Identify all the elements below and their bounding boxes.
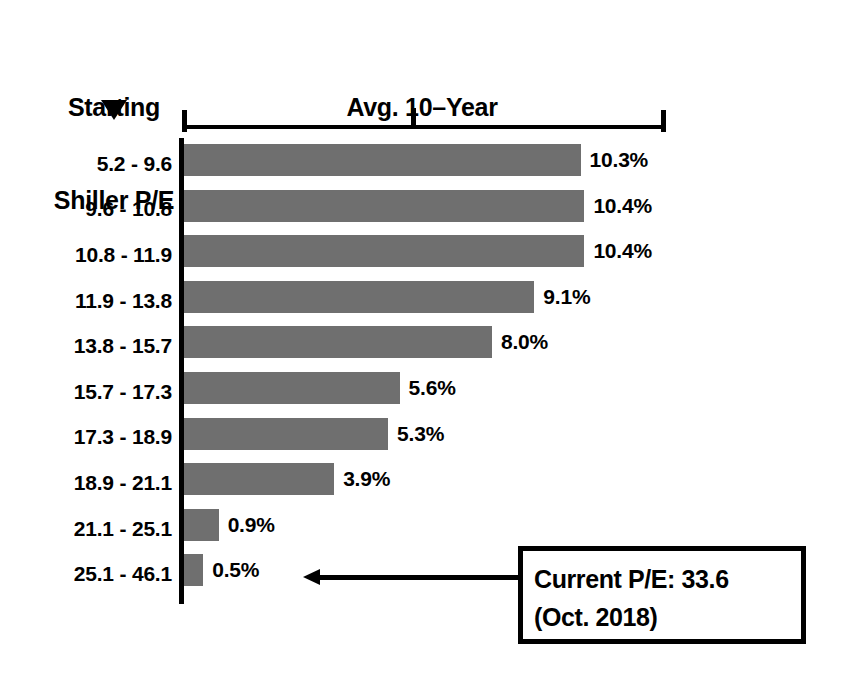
- bar-and-value: 3.9%: [184, 463, 390, 495]
- x-axis-tick-start: [182, 110, 187, 132]
- category-label: 18.9 - 21.1: [74, 471, 172, 495]
- bar-row: 11.9 - 13.89.1%: [0, 278, 852, 324]
- bar-row: 9.6 - 10.810.4%: [0, 187, 852, 233]
- bar-value-label: 10.3%: [590, 148, 649, 172]
- bar: [184, 418, 388, 450]
- category-label: 13.8 - 15.7: [74, 334, 172, 358]
- bar-and-value: 10.4%: [184, 235, 652, 267]
- category-label: 15.7 - 17.3: [74, 380, 172, 404]
- callout-arrow: [303, 575, 519, 581]
- bar-and-value: 10.3%: [184, 144, 648, 176]
- chart-title-line-1: Avg. 10–Year: [278, 92, 566, 123]
- bar: [184, 235, 584, 267]
- bar-row: 18.9 - 21.13.9%: [0, 460, 852, 506]
- category-label: 10.8 - 11.9: [75, 243, 172, 267]
- bar: [184, 463, 334, 495]
- arrow-shaft: [317, 575, 519, 580]
- bar-value-label: 9.1%: [543, 285, 590, 309]
- x-axis-tick-end: [661, 110, 666, 132]
- bar-row: 13.8 - 15.78.0%: [0, 323, 852, 369]
- bar-row: 15.7 - 17.35.6%: [0, 369, 852, 415]
- bar-value-label: 5.6%: [409, 376, 456, 400]
- bar: [184, 554, 203, 586]
- category-label: 5.2 - 9.6: [97, 152, 172, 176]
- x-axis-line: [182, 125, 666, 129]
- bar-value-label: 5.3%: [397, 422, 444, 446]
- bar: [184, 372, 400, 404]
- bar-row: 5.2 - 9.610.3%: [0, 141, 852, 187]
- bar-row: 17.3 - 18.95.3%: [0, 415, 852, 461]
- bar: [184, 144, 581, 176]
- bar-and-value: 10.4%: [184, 190, 652, 222]
- category-label: 9.6 - 10.8: [85, 197, 172, 221]
- bar: [184, 190, 584, 222]
- category-label: 21.1 - 25.1: [74, 517, 172, 541]
- bar-value-label: 0.5%: [212, 558, 259, 582]
- bar-and-value: 5.3%: [184, 418, 444, 450]
- triangle-down-icon: [101, 100, 127, 120]
- bar-and-value: 8.0%: [184, 326, 548, 358]
- bar-row: 21.1 - 25.10.9%: [0, 506, 852, 552]
- category-label: 11.9 - 13.8: [75, 289, 172, 313]
- callout-line-1: Current P/E: 33.6: [534, 560, 801, 598]
- shiller-pe-return-chart: Starting Shiller P/E Avg. 10–Year Real R…: [0, 0, 852, 684]
- bar-and-value: 9.1%: [184, 281, 590, 313]
- bar-value-label: 0.9%: [228, 513, 275, 537]
- bar-and-value: 0.9%: [184, 509, 275, 541]
- bar-value-label: 10.4%: [593, 194, 652, 218]
- bar-and-value: 5.6%: [184, 372, 456, 404]
- bar-value-label: 3.9%: [343, 467, 390, 491]
- bar: [184, 281, 534, 313]
- current-pe-callout: Current P/E: 33.6 (Oct. 2018): [518, 546, 806, 644]
- bar-value-label: 10.4%: [593, 239, 652, 263]
- bar-and-value: 0.5%: [184, 554, 259, 586]
- bar-rows: 5.2 - 9.610.3%9.6 - 10.810.4%10.8 - 11.9…: [0, 141, 852, 597]
- category-label: 17.3 - 18.9: [74, 425, 172, 449]
- bar: [184, 509, 219, 541]
- callout-line-2: (Oct. 2018): [534, 598, 801, 636]
- x-axis-tick-mid: [411, 108, 416, 128]
- bar: [184, 326, 492, 358]
- category-label: 25.1 - 46.1: [74, 562, 172, 586]
- bar-value-label: 8.0%: [501, 330, 548, 354]
- bar-row: 10.8 - 11.910.4%: [0, 232, 852, 278]
